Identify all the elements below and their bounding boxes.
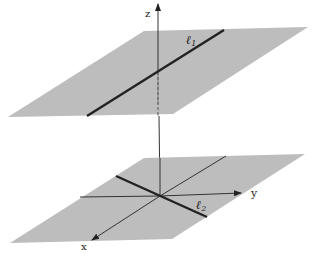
y-axis-label: y (250, 187, 258, 200)
z-axis-label: z (145, 8, 150, 19)
lower-plane (10, 154, 305, 243)
two-planes-diagram: z ℓ1 y x ℓ2 (0, 0, 316, 258)
x-axis-label: x (81, 241, 87, 252)
